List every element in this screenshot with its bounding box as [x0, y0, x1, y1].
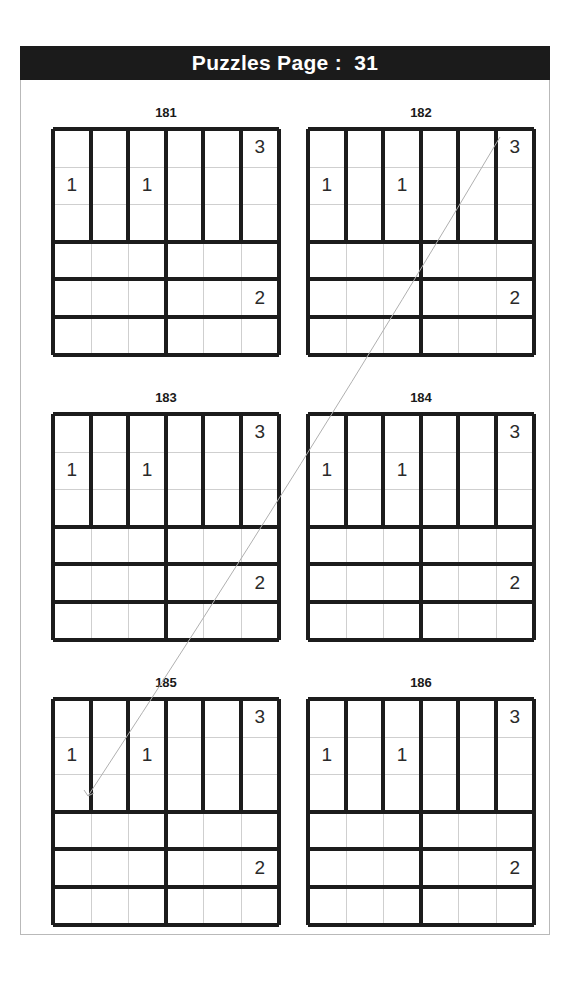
grid-cell[interactable]: 1: [308, 452, 346, 490]
grid-cell[interactable]: [203, 737, 241, 775]
grid-cell[interactable]: [458, 602, 496, 640]
grid-cell[interactable]: [53, 812, 91, 850]
grid-cell[interactable]: [241, 242, 279, 280]
grid-cell[interactable]: [128, 774, 166, 812]
grid-cell[interactable]: [53, 887, 91, 925]
grid-cell[interactable]: [421, 737, 459, 775]
grid-cell[interactable]: [166, 204, 204, 242]
grid-cell[interactable]: [383, 527, 421, 565]
grid-cell[interactable]: [203, 489, 241, 527]
puzzle-181[interactable]: 1813112: [53, 129, 279, 355]
puzzle-grid[interactable]: 3112: [53, 129, 279, 355]
grid-cell[interactable]: [421, 204, 459, 242]
grid-cell[interactable]: [241, 204, 279, 242]
grid-cell[interactable]: 1: [128, 737, 166, 775]
grid-cell[interactable]: [346, 849, 384, 887]
grid-cell[interactable]: 2: [241, 279, 279, 317]
grid-cell[interactable]: [91, 849, 129, 887]
grid-cell[interactable]: [91, 527, 129, 565]
grid-cell[interactable]: [308, 204, 346, 242]
grid-cell[interactable]: [166, 887, 204, 925]
grid-cell[interactable]: [203, 849, 241, 887]
grid-cell[interactable]: [91, 279, 129, 317]
grid-cell[interactable]: [53, 489, 91, 527]
grid-cell[interactable]: [458, 774, 496, 812]
grid-cell[interactable]: [346, 242, 384, 280]
grid-cell[interactable]: [346, 452, 384, 490]
grid-cell[interactable]: [241, 812, 279, 850]
grid-cell[interactable]: [241, 737, 279, 775]
grid-cell[interactable]: [91, 489, 129, 527]
grid-cell[interactable]: [346, 602, 384, 640]
grid-cell[interactable]: [203, 317, 241, 355]
grid-cell[interactable]: [308, 242, 346, 280]
grid-cell[interactable]: [53, 849, 91, 887]
grid-cell[interactable]: [346, 317, 384, 355]
grid-cell[interactable]: [496, 489, 534, 527]
grid-cell[interactable]: [308, 699, 346, 737]
grid-cell[interactable]: 1: [383, 452, 421, 490]
grid-cell[interactable]: [496, 774, 534, 812]
grid-cell[interactable]: [421, 774, 459, 812]
grid-cell[interactable]: [421, 167, 459, 205]
grid-cell[interactable]: 1: [128, 452, 166, 490]
grid-cell[interactable]: [241, 489, 279, 527]
grid-cell[interactable]: [308, 489, 346, 527]
grid-cell[interactable]: [308, 774, 346, 812]
grid-cell[interactable]: [421, 887, 459, 925]
grid-cell[interactable]: [128, 699, 166, 737]
grid-cell[interactable]: [128, 129, 166, 167]
puzzle-grid[interactable]: 3112: [308, 414, 534, 640]
grid-cell[interactable]: [241, 317, 279, 355]
grid-cell[interactable]: 1: [128, 167, 166, 205]
grid-cell[interactable]: [166, 414, 204, 452]
grid-cell[interactable]: [128, 489, 166, 527]
grid-cell[interactable]: [383, 849, 421, 887]
puzzle-grid[interactable]: 3112: [53, 414, 279, 640]
grid-cell[interactable]: [458, 414, 496, 452]
grid-cell[interactable]: [203, 414, 241, 452]
grid-cell[interactable]: [346, 699, 384, 737]
grid-cell[interactable]: [458, 242, 496, 280]
grid-cell[interactable]: [128, 527, 166, 565]
grid-cell[interactable]: [346, 812, 384, 850]
grid-cell[interactable]: [203, 452, 241, 490]
grid-cell[interactable]: [346, 564, 384, 602]
grid-cell[interactable]: [421, 129, 459, 167]
grid-cell[interactable]: [203, 602, 241, 640]
grid-cell[interactable]: [91, 167, 129, 205]
grid-cell[interactable]: [53, 774, 91, 812]
grid-cell[interactable]: 1: [308, 737, 346, 775]
grid-cell[interactable]: [203, 204, 241, 242]
grid-cell[interactable]: [383, 564, 421, 602]
grid-cell[interactable]: [383, 774, 421, 812]
grid-cell[interactable]: [421, 527, 459, 565]
grid-cell[interactable]: [91, 699, 129, 737]
grid-cell[interactable]: [458, 699, 496, 737]
grid-cell[interactable]: [128, 602, 166, 640]
grid-cell[interactable]: [166, 774, 204, 812]
grid-cell[interactable]: [128, 564, 166, 602]
grid-cell[interactable]: [346, 414, 384, 452]
grid-cell[interactable]: 2: [241, 564, 279, 602]
grid-cell[interactable]: [166, 489, 204, 527]
grid-cell[interactable]: [421, 849, 459, 887]
grid-cell[interactable]: [496, 242, 534, 280]
grid-cell[interactable]: [91, 242, 129, 280]
grid-cell[interactable]: [128, 887, 166, 925]
grid-cell[interactable]: [128, 279, 166, 317]
grid-cell[interactable]: [166, 317, 204, 355]
puzzle-grid[interactable]: 3112: [53, 699, 279, 925]
grid-cell[interactable]: [383, 489, 421, 527]
grid-cell[interactable]: [53, 527, 91, 565]
grid-cell[interactable]: [421, 812, 459, 850]
grid-cell[interactable]: [383, 699, 421, 737]
grid-cell[interactable]: [166, 167, 204, 205]
grid-cell[interactable]: [383, 602, 421, 640]
grid-cell[interactable]: [53, 317, 91, 355]
grid-cell[interactable]: [308, 564, 346, 602]
grid-cell[interactable]: [203, 887, 241, 925]
grid-cell[interactable]: [53, 204, 91, 242]
grid-cell[interactable]: [383, 317, 421, 355]
grid-cell[interactable]: [53, 602, 91, 640]
